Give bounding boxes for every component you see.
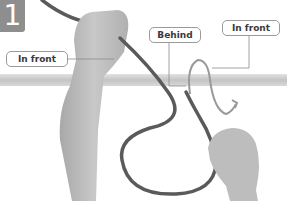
horizontal-bar	[0, 74, 287, 86]
right-hand	[208, 128, 259, 201]
label-in-front-right: In front	[222, 20, 280, 36]
label-in-front-left: In front	[6, 51, 68, 67]
leader-front-right	[212, 36, 249, 68]
knot-diagram: 1 In front Behind In front	[0, 0, 290, 201]
left-arm	[60, 10, 129, 201]
arrow-head-icon	[232, 100, 237, 108]
label-behind: Behind	[149, 27, 201, 43]
step-number-badge: 1	[0, 0, 25, 32]
